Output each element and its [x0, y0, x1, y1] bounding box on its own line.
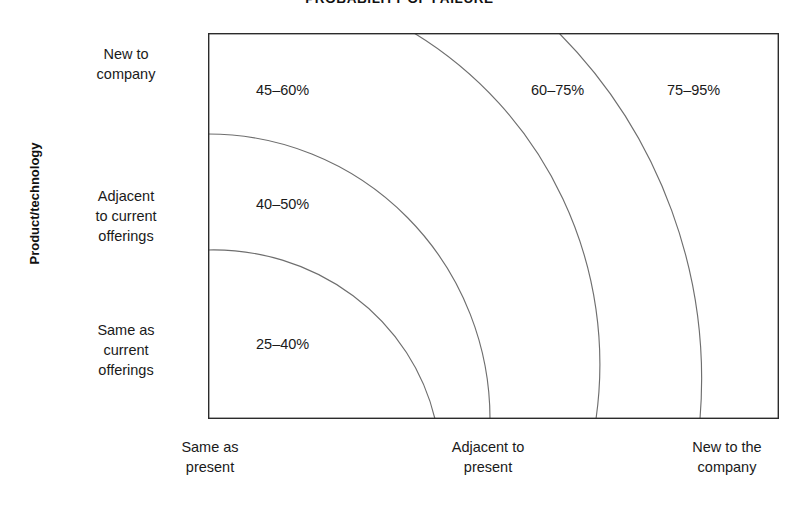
band-value-75-95: 75–95%: [667, 82, 720, 98]
x-axis-label-new-to-the-company: New to thecompany: [642, 437, 799, 477]
plot-area: 45–60% 40–50% 25–40% 60–75% 75–95%: [208, 33, 779, 419]
band-value-60-75: 60–75%: [531, 82, 584, 98]
band-arc-low-risk: [208, 134, 490, 419]
x-axis-label-same-as-present: Same aspresent: [125, 437, 295, 477]
probability-of-failure-chart: PROBABILITY OF FAILURE Product/technolog…: [0, 0, 799, 528]
band-value-45-60: 45–60%: [256, 82, 309, 98]
chart-title: PROBABILITY OF FAILURE: [0, 0, 799, 6]
x-axis-label-adjacent-to-present: Adjacent topresent: [403, 437, 573, 477]
y-axis-label-same-as-current-offerings: Same ascurrentofferings: [60, 320, 192, 380]
band-value-25-40: 25–40%: [256, 336, 309, 352]
y-axis-label-new-to-company: New tocompany: [60, 44, 192, 84]
y-axis-title: Product/technology: [27, 124, 42, 284]
band-value-40-50: 40–50%: [256, 196, 309, 212]
y-axis-label-adjacent-to-current-offerings: Adjacentto currentofferings: [60, 186, 192, 246]
band-arc-lowest-risk: [208, 250, 435, 419]
